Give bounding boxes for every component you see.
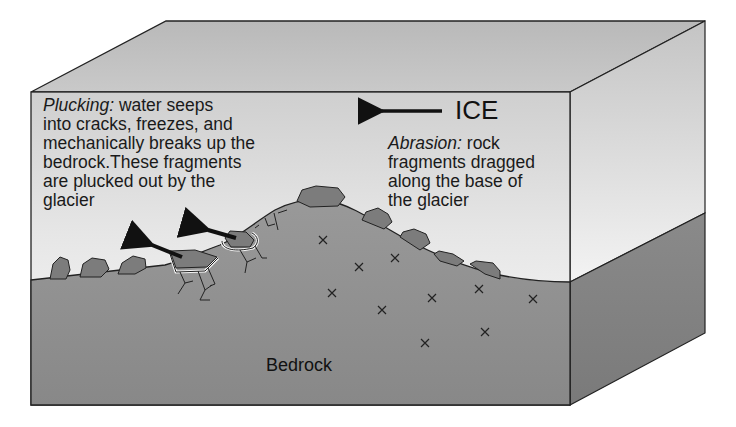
plucking-term: Plucking: xyxy=(43,95,114,115)
ice-label: ICE xyxy=(455,96,498,124)
plucking-caption: Plucking: water seeps into cracks, freez… xyxy=(43,96,313,210)
abrasion-term: Abrasion: xyxy=(388,133,462,153)
abrasion-caption: Abrasion: rock fragments dragged along t… xyxy=(388,134,588,210)
glacier-block-diagram xyxy=(0,0,736,427)
bedrock-label: Bedrock xyxy=(266,355,332,376)
